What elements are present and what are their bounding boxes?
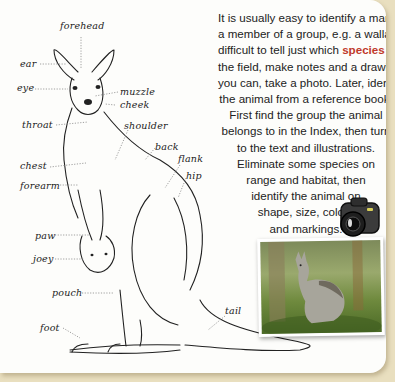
label-forehead: forehead xyxy=(60,20,105,31)
label-pouch: pouch xyxy=(52,287,82,298)
label-tail: tail xyxy=(225,305,241,316)
highlight-term: species xyxy=(342,43,385,56)
label-shoulder: shoulder xyxy=(124,120,168,131)
label-chest: chest xyxy=(20,160,47,171)
photo-image xyxy=(260,240,382,334)
camera-icon xyxy=(337,195,383,241)
paragraph-line: the animal from a reference book. xyxy=(218,91,386,107)
paragraph-line: a member of a group, e.g. a wallaby, but xyxy=(218,26,386,42)
paragraph-line: to the text and illustrations. xyxy=(218,140,386,156)
paragraph-line: range and habitat, then xyxy=(218,172,386,188)
guide-page: forehead ear eye muzzle cheek throat sho… xyxy=(0,0,386,373)
label-foot: foot xyxy=(40,322,60,333)
paragraph-line: difficult to tell just which species it … xyxy=(218,42,386,58)
label-hip: hip xyxy=(186,170,202,181)
label-cheek: cheek xyxy=(120,99,149,110)
label-throat: throat xyxy=(22,119,53,130)
paragraph-line: It is usually easy to identify a mammal … xyxy=(218,10,386,26)
kangaroo-photo xyxy=(257,237,385,337)
kangaroo-photo-icon xyxy=(260,240,382,334)
label-muzzle: muzzle xyxy=(120,86,155,97)
paragraph-text: difficult to tell just which xyxy=(218,43,339,56)
paragraph-line: First find the group the animal xyxy=(218,107,386,123)
label-flank: flank xyxy=(178,153,203,164)
label-joey: joey xyxy=(33,253,53,264)
paragraph-line: the field, make notes and a drawing. If xyxy=(218,59,386,75)
label-back: back xyxy=(155,141,179,152)
paragraph-line: Eliminate some species on xyxy=(218,156,386,172)
label-eye: eye xyxy=(17,82,34,93)
paragraph-line: you can, take a photo. Later, identify xyxy=(218,75,386,91)
label-ear: ear xyxy=(20,58,36,69)
label-paw: paw xyxy=(35,230,55,241)
paragraph-line: belongs to in the Index, then turn xyxy=(218,123,386,139)
label-forearm: forearm xyxy=(20,180,60,191)
